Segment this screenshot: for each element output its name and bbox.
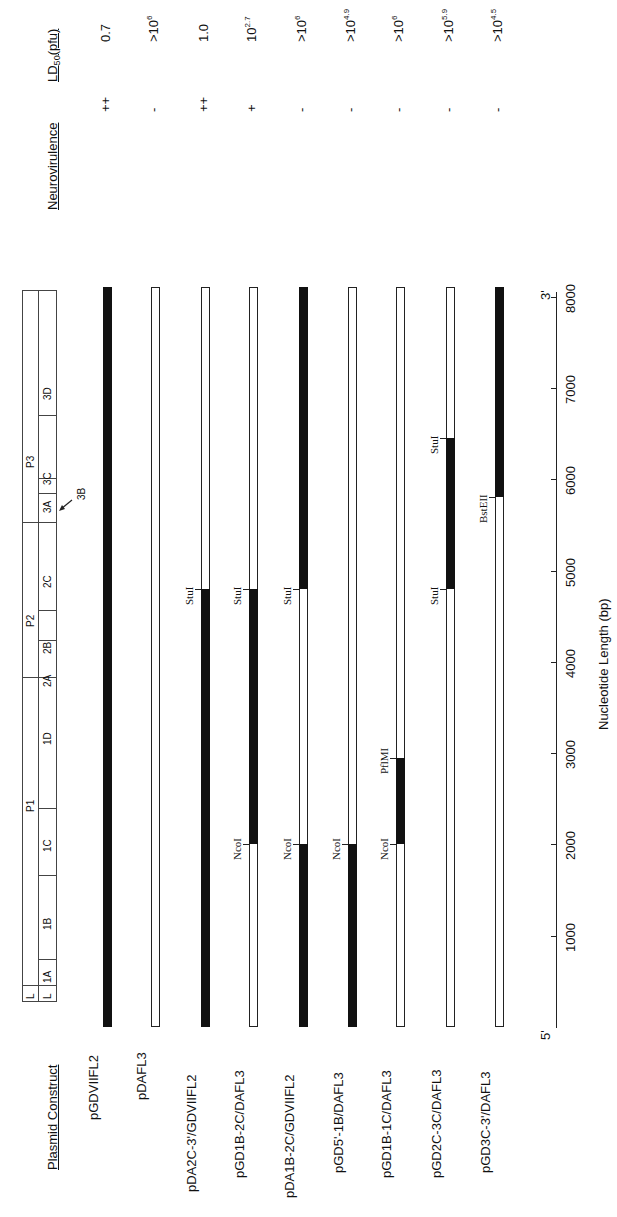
restriction-site-label: StuI (231, 586, 243, 604)
site-tick (440, 589, 446, 590)
site-tick (342, 844, 348, 845)
axis-tick-label: 6000 (563, 466, 578, 495)
construct-bar (299, 287, 308, 1027)
gdvii-segment (103, 287, 112, 1027)
construct-bar (396, 287, 405, 1027)
restriction-site-label: StuI (281, 586, 293, 604)
construct-bar (103, 287, 112, 1027)
site-tick (390, 758, 396, 759)
gdvii-segment (249, 589, 258, 845)
site-tick (489, 497, 495, 498)
construct-name: pGD1B-2C/DAFL3 (232, 1070, 247, 1178)
ld50-prefix: LD (45, 65, 60, 82)
map-label: 1D (42, 732, 53, 745)
map-pointer-label: 3B (76, 488, 87, 500)
axis-tick (551, 844, 557, 845)
map-label: 3A (42, 501, 53, 513)
ld50-value: >106 (391, 15, 406, 42)
ld50-subscript: 50 (52, 55, 62, 65)
gdvii-segment (201, 589, 210, 1027)
map-label: 2C (42, 575, 53, 588)
da-segment (396, 287, 405, 1027)
ld50-suffix: (pfu) (45, 29, 60, 56)
ld50-value: 0.7 (98, 24, 113, 42)
neurovirulence-value: - (294, 108, 309, 112)
restriction-site-label: StuI (183, 586, 195, 604)
construct-name: pGD1B-1C/DAFL3 (379, 1070, 394, 1178)
arrow-icon (58, 498, 74, 512)
da-segment (446, 287, 455, 1027)
restriction-site-label: StuI (428, 436, 440, 454)
ld50-value: 1.0 (196, 24, 211, 42)
axis-tick (551, 388, 557, 389)
axis-tick-label: 1000 (563, 923, 578, 952)
gdvii-segment (299, 844, 308, 1027)
map-label: 2A (42, 675, 53, 687)
three-prime-label: 3' (538, 290, 553, 300)
ld50-value: 102.7 (244, 16, 259, 42)
restriction-site-label: NcoI (378, 838, 390, 860)
construct-bar (495, 287, 504, 1027)
construct-name: pGD5'-1B/DAFL3 (331, 1072, 346, 1173)
ld50-header: LD50(pfu) (45, 29, 60, 82)
construct-name: pGD2C-3C/DAFL3 (429, 1070, 444, 1178)
construct-bar (348, 287, 357, 1027)
construct-name: pDAFL3 (134, 1052, 149, 1100)
construct-name: pGD3C-3'/DAFL3 (478, 1072, 493, 1173)
ld50-value: >106 (294, 15, 309, 42)
neurovirulence-value: - (391, 108, 406, 112)
axis-tick (551, 479, 557, 480)
neurovirulence-value: + (244, 104, 259, 112)
map-label: 1A (42, 971, 53, 983)
map-label: 3C (42, 472, 53, 485)
axis-tick (551, 753, 557, 754)
map-label: 2B (42, 642, 53, 654)
site-tick (293, 589, 299, 590)
site-tick (440, 438, 446, 439)
construct-bar (249, 287, 258, 1027)
neurovirulence-value: - (343, 108, 358, 112)
restriction-site-label: BstEII (477, 495, 489, 524)
map-label: L (42, 993, 53, 999)
x-axis-title: Nucleotide Length (bp) (596, 598, 611, 730)
restriction-site-label: PflMI (378, 747, 390, 773)
neurovirulence-value: - (146, 108, 161, 112)
gdvii-segment (348, 844, 357, 1027)
axis-tick-label: 5000 (563, 558, 578, 587)
construct-bar (201, 287, 210, 1027)
axis-tick-label: 7000 (563, 375, 578, 404)
gdvii-segment (446, 438, 455, 589)
gdvii-segment (299, 287, 308, 588)
construct-name: pDA1B-2C/GDVIIFL2 (282, 1074, 297, 1198)
map-label: 1C (42, 839, 53, 852)
map-label: P2 (25, 615, 36, 627)
site-tick (390, 844, 396, 845)
site-tick (243, 844, 249, 845)
neurovirulence-value: - (441, 108, 456, 112)
map-label: P3 (25, 456, 36, 468)
ld50-value: >104.9 (343, 9, 358, 42)
construct-name: pGDVIIFL2 (86, 1055, 101, 1120)
map-label: L (25, 993, 36, 999)
ld50-value: >105.9 (441, 9, 456, 42)
neurovirulence-header: Neurovirulence (45, 123, 60, 210)
plasmid-construct-header: Plasmid Construct (45, 1065, 60, 1170)
site-tick (243, 589, 249, 590)
gdvii-segment (495, 287, 504, 497)
construct-bar (446, 287, 455, 1027)
construct-name: pDA2C-3'/GDVIIFL2 (184, 1075, 199, 1192)
construct-bar (151, 287, 160, 1027)
site-tick (195, 589, 201, 590)
axis-tick-label: 3000 (563, 740, 578, 769)
five-prime-label: 5' (538, 1030, 553, 1040)
site-tick (293, 844, 299, 845)
restriction-site-label: NcoI (231, 838, 243, 860)
ld50-value: >106 (146, 15, 161, 42)
neurovirulence-value: ++ (196, 97, 211, 112)
axis-tick-label: 2000 (563, 831, 578, 860)
axis-tick (551, 571, 557, 572)
axis-tick (551, 936, 557, 937)
restriction-site-label: NcoI (281, 838, 293, 860)
ld50-value: >104.5 (490, 9, 505, 42)
axis-tick-label: 8000 (563, 284, 578, 313)
